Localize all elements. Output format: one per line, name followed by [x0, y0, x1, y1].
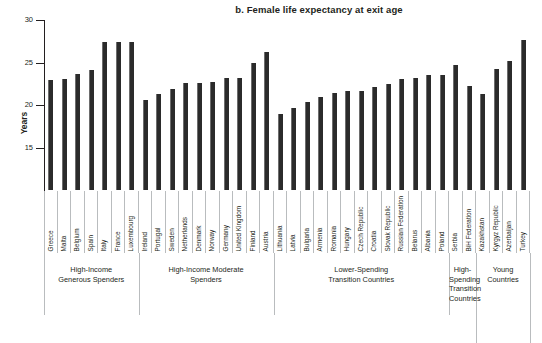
x-axis-label: Hungary	[344, 227, 350, 251]
x-axis-label-cell: Turkey	[517, 191, 531, 253]
x-axis-label-cell: Romania	[328, 191, 342, 253]
x-axis-label: Ireland	[142, 231, 148, 251]
x-axis-label: Italy	[101, 239, 107, 251]
x-axis-label: Germany	[223, 225, 229, 251]
bar	[480, 94, 485, 190]
y-tick-label: 20	[0, 101, 33, 109]
bar	[129, 42, 134, 190]
x-axis-label: Armenia	[317, 227, 323, 251]
bar	[143, 100, 148, 190]
x-axis-label-cell: Netherlands	[179, 191, 193, 253]
group-label-line: Transition Countries	[274, 275, 450, 285]
x-axis-label: Serbia	[452, 233, 458, 251]
bar	[278, 114, 283, 190]
x-axis-label-cell: Russian Federation	[395, 191, 409, 253]
group-label-line: Transition	[449, 284, 476, 294]
x-axis-label-cell: Armenia	[314, 191, 328, 253]
group-separator	[530, 253, 531, 343]
bar	[156, 94, 161, 190]
chart-title: b. Female life expectancy at exit age	[0, 4, 542, 15]
bar	[305, 102, 310, 190]
chart-figure: b. Female life expectancy at exit age Ye…	[0, 0, 542, 343]
x-axis-label: BiH Federation	[466, 208, 472, 251]
x-axis-label-cell: Poland	[436, 191, 450, 253]
x-axis-label-cell: United Kingdom	[233, 191, 247, 253]
x-axis-label-cell: Malta	[58, 191, 72, 253]
plot-area	[44, 20, 530, 190]
bar	[399, 79, 404, 190]
x-axis-label-cell: BiH Federation	[463, 191, 477, 253]
group-label: High-SpendingTransitionCountries	[449, 265, 476, 303]
x-axis-label: Lithuania	[277, 225, 283, 251]
x-axis-label-cell: Lithuania	[274, 191, 288, 253]
bar	[62, 79, 67, 190]
x-axis-label: France	[115, 231, 121, 251]
x-axis-label-cell: Belarus	[409, 191, 423, 253]
group-label-line: High-Income Moderate	[139, 265, 274, 275]
bar	[521, 40, 526, 190]
x-axis-label: Poland	[439, 231, 445, 251]
x-axis-label: Finland	[250, 230, 256, 251]
x-axis-label-cell: Kyrgyz Republic	[490, 191, 504, 253]
x-axis-label-cell: Germany	[220, 191, 234, 253]
x-axis-label: Kyrgyz Republic	[493, 205, 499, 251]
bar	[332, 93, 337, 190]
x-axis-label: Latvia	[290, 234, 296, 251]
group-label: Lower-SpendingTransition Countries	[274, 265, 450, 284]
x-axis-label-cell: Bulgaria	[301, 191, 315, 253]
bar	[386, 84, 391, 190]
y-tick-mark	[36, 20, 44, 21]
x-axis-label: Azerbaijan	[506, 221, 512, 251]
x-axis-label-cell: Azerbaijan	[503, 191, 517, 253]
x-axis-label-cell: Sweden	[166, 191, 180, 253]
group-label: High-Income ModerateSpenders	[139, 265, 274, 284]
x-axis-label: Kazakhstan	[479, 218, 485, 251]
x-axis-label-cell: Belgium	[71, 191, 85, 253]
bar	[183, 83, 188, 190]
y-tick-mark	[36, 105, 44, 106]
x-axis-label: United Kingdom	[236, 206, 242, 251]
x-axis-label: Portugal	[155, 227, 161, 251]
x-axis-label: Belarus	[412, 229, 418, 251]
x-axis-label: Norway	[209, 229, 215, 251]
x-axis-label: Greece	[48, 230, 54, 251]
x-axis-label: Slovak Republic	[385, 205, 391, 251]
bar	[318, 97, 323, 191]
bar	[345, 91, 350, 190]
y-tick-mark	[36, 63, 44, 64]
group-label-line: Lower-Spending	[274, 265, 450, 275]
bar	[372, 87, 377, 190]
bar	[291, 108, 296, 190]
x-axis-label-cell: Spain	[85, 191, 99, 253]
group-label-line: Spenders	[139, 275, 274, 285]
y-tick-label: 15	[0, 144, 33, 152]
x-axis-label-cell: Luxembourg	[125, 191, 139, 253]
group-label-line: High-	[449, 265, 476, 275]
x-axis-label: Netherlands	[182, 217, 188, 251]
x-axis-label: Denmark	[196, 225, 202, 251]
x-axis-label-cell: Denmark	[193, 191, 207, 253]
x-axis-label: Romania	[331, 225, 337, 251]
bar	[210, 82, 215, 190]
x-axis-label: Albania	[425, 230, 431, 251]
bar	[440, 75, 445, 190]
x-axis-label: Russian Federation	[398, 196, 404, 251]
bar	[75, 74, 80, 190]
y-tick-label: 30	[0, 16, 33, 24]
x-axis-group-labels: High-IncomeGenerous SpendersHigh-Income …	[44, 253, 530, 343]
x-axis-label: Croatia	[371, 230, 377, 251]
group-label-line: Generous Spenders	[44, 275, 139, 285]
bar	[237, 78, 242, 190]
x-axis-label-cell: Finland	[247, 191, 261, 253]
bar	[453, 65, 458, 190]
group-label-line: Countries	[476, 275, 530, 285]
x-axis-label-cell: Albania	[422, 191, 436, 253]
x-axis-label: Turkey	[520, 232, 526, 251]
bar	[89, 70, 94, 190]
y-tick-label: 25	[0, 59, 33, 67]
bar	[494, 69, 499, 190]
x-axis-category-labels: GreeceMaltaBelgiumSpainItalyFranceLuxemb…	[44, 191, 530, 253]
bar	[467, 86, 472, 190]
x-axis-label: Bulgaria	[304, 228, 310, 251]
x-axis-label: Czech Republic	[358, 206, 364, 251]
